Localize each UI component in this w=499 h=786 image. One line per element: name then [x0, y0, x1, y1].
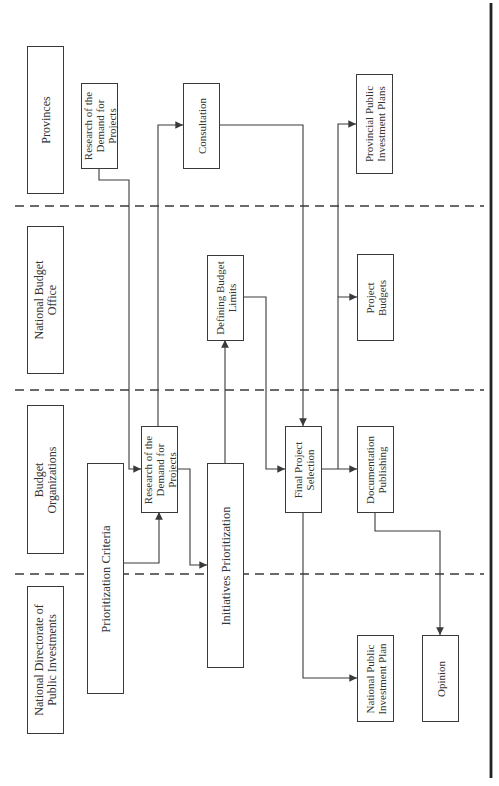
node-prioritization-criteria: Prioritization Criteria — [87, 463, 124, 694]
lane-label: Budget Organizations — [33, 446, 59, 513]
node-label: Research of the Demand for Projects — [82, 92, 118, 160]
node-label: Defining Budget Limits — [214, 261, 238, 335]
lane-header-national-budget-office: National Budget Office — [27, 226, 64, 374]
lane-label: National Directorate of Public Investmen… — [33, 604, 59, 715]
node-label: Research of the Demand for Projects — [142, 435, 178, 503]
node-label: Opinion — [435, 660, 447, 696]
node-label: Consultation — [196, 98, 208, 154]
node-provincial-public-investment-plans: Provincial Public Investment Plans — [356, 74, 393, 174]
node-research-demand-budget-orgs: Research of the Demand for Projects — [141, 426, 178, 513]
node-label: Provincial Public Investment Plans — [363, 86, 387, 162]
lane-header-national-directorate: National Directorate of Public Investmen… — [27, 586, 64, 734]
node-label: Final Project Selection — [292, 441, 316, 498]
node-project-budgets: Project Budgets — [357, 254, 394, 341]
node-final-project-selection: Final Project Selection — [285, 426, 322, 513]
node-opinion: Opinion — [422, 635, 459, 722]
lane-label: National Budget Office — [33, 261, 59, 340]
node-label: Prioritization Criteria — [99, 525, 112, 632]
node-label: Documentation Publishing — [364, 436, 388, 504]
swimlane-flowchart: Provinces National Budget Office Budget … — [0, 0, 499, 786]
node-label: National Public Investment Plan — [364, 643, 388, 714]
node-label: Project Budgets — [364, 279, 388, 315]
node-defining-budget-limits: Defining Budget Limits — [207, 255, 244, 341]
lane-header-provinces: Provinces — [27, 46, 64, 194]
node-consultation: Consultation — [183, 83, 220, 169]
node-label: Initiatives Prioritization — [219, 506, 232, 625]
node-national-public-investment-plan: National Public Investment Plan — [357, 635, 394, 722]
lane-header-budget-organizations: Budget Organizations — [27, 405, 64, 554]
lane-label: Provinces — [39, 96, 52, 143]
node-documentation-publishing: Documentation Publishing — [357, 426, 394, 513]
node-research-demand-provinces: Research of the Demand for Projects — [81, 83, 118, 169]
node-initiatives-prioritization: Initiatives Prioritization — [207, 463, 244, 668]
